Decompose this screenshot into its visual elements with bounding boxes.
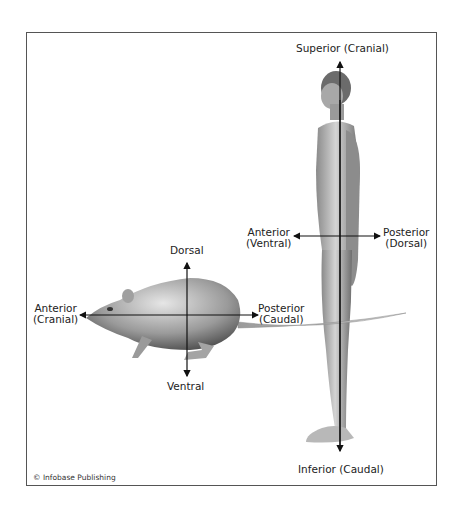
anatomy-illustration xyxy=(0,0,461,514)
human-figure xyxy=(306,71,360,443)
rat-figure xyxy=(86,278,240,360)
label-human-posterior: Posterior (Dorsal) xyxy=(383,227,429,249)
label-human-posterior-line2: (Dorsal) xyxy=(383,238,429,249)
label-rat-posterior-line2: (Caudal) xyxy=(258,314,304,325)
label-rat-anterior-line2: (Cranial) xyxy=(33,314,78,325)
label-human-anterior-line2: (Ventral) xyxy=(246,238,291,249)
label-rat-posterior: Posterior (Caudal) xyxy=(258,303,304,325)
label-dorsal: Dorsal xyxy=(170,245,204,256)
label-ventral: Ventral xyxy=(167,381,204,392)
label-inferior: Inferior (Caudal) xyxy=(298,464,384,475)
label-rat-anterior: Anterior (Cranial) xyxy=(33,303,78,325)
copyright-credit: © Infobase Publishing xyxy=(33,473,116,482)
label-superior: Superior (Cranial) xyxy=(296,43,389,54)
label-human-anterior: Anterior (Ventral) xyxy=(246,227,291,249)
